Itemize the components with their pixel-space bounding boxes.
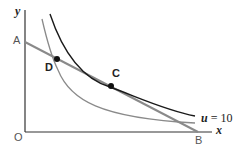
utility-value: = 10 xyxy=(211,111,233,125)
utility-var: u xyxy=(201,111,208,125)
origin-label: O xyxy=(14,132,23,143)
utility-level-label: u = 10 xyxy=(201,112,232,124)
point-c-label: C xyxy=(112,68,120,79)
y-axis-label: y xyxy=(15,5,20,17)
indifference-diagram xyxy=(0,0,251,153)
point-d-marker xyxy=(54,56,60,62)
outer-indifference-curve xyxy=(50,14,195,116)
x-axis-label: x xyxy=(216,124,222,136)
point-b-label: B xyxy=(195,135,202,146)
point-c-marker xyxy=(108,83,114,89)
point-d-label: D xyxy=(45,62,53,73)
point-a-label: A xyxy=(13,35,20,46)
